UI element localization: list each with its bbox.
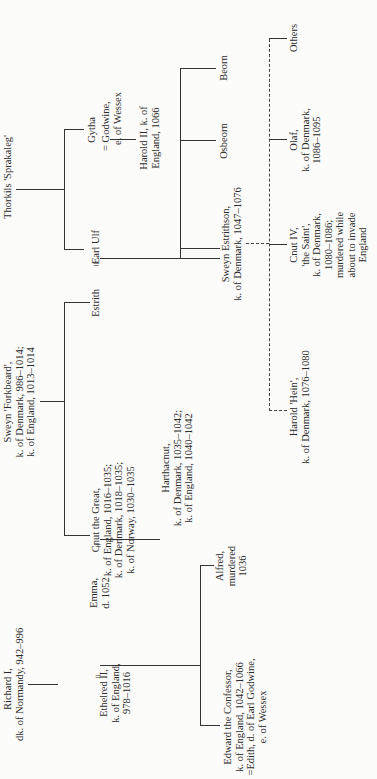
label: Cnut IV, [288, 197, 300, 293]
node-harold-hein: Harold 'Hein', k. of Denmark, 1076–1080 [288, 343, 311, 471]
node-estrith: Estrith [90, 273, 102, 333]
node-gytha: Gytha [86, 100, 98, 160]
label: k. of England, 1040–1042 [183, 395, 195, 541]
connector [64, 130, 65, 250]
label: k. of Denmark, 1035–1042; [172, 395, 184, 541]
label: murdered [226, 539, 238, 593]
label: Estrith [90, 273, 102, 333]
connector [180, 68, 216, 69]
label: 'the Saint', [300, 197, 312, 293]
label: Gytha [86, 100, 98, 160]
label: Thorkils 'Sprakaleg' [2, 115, 14, 239]
connector [110, 139, 136, 140]
connector [64, 129, 84, 130]
label: k. of Norway, 1030–1035 [125, 445, 137, 595]
connector [28, 684, 58, 685]
connector [16, 189, 64, 190]
node-others: Others [288, 13, 300, 63]
node-cnut: Cnut the Great, k. of England, 1016–1035… [90, 445, 136, 595]
node-beorn: Beorn [218, 47, 230, 89]
node-osbeorn: Osbeorn [218, 115, 230, 167]
node-alfred: Alfred, murdered 1036 [214, 539, 249, 593]
label: Harold II, k. of [138, 98, 150, 178]
connector [100, 539, 160, 540]
label: 1080–1086; [323, 197, 335, 293]
label: Sweyn 'Forkbeard', [2, 329, 14, 475]
label: Others [288, 13, 300, 63]
marriage-sign: = [95, 670, 101, 682]
label: dk. of Normandy, 942–996 [14, 637, 26, 741]
label: murdered while [334, 197, 346, 293]
label: England [357, 197, 369, 293]
label: Earl Ulf [90, 217, 102, 277]
label: Harold 'Hein', [288, 343, 300, 471]
label: =Edith, d. of Earl Godwine, [245, 647, 257, 779]
node-edward: Edward the Confessor, k. of England, 104… [222, 647, 268, 779]
label: Cnut the Great, [90, 445, 102, 595]
node-earl-ulf: Earl Ulf [90, 217, 102, 277]
label: Alfred, [214, 539, 226, 593]
label: k. of Denmark, 1047–1076 [232, 182, 244, 306]
connector [200, 565, 214, 566]
label: k. of Denmark, 986–1014; [14, 329, 26, 475]
label: 1036 [237, 539, 249, 593]
connector [200, 725, 220, 726]
connector [180, 69, 181, 259]
connector-dashed [269, 410, 287, 411]
connector [269, 38, 287, 39]
label: e. of Wessex [257, 647, 269, 779]
connector [269, 139, 287, 140]
connector [64, 402, 65, 536]
label: Harthacnut, [160, 395, 172, 541]
node-sweyn-estrithson: Sweyn Estrithson, k. of Denmark, 1047–10… [220, 182, 243, 306]
connector [100, 665, 200, 666]
label: k. of England, 1013–1014 [25, 329, 37, 475]
connector [40, 401, 64, 402]
label: 1086–1095 [311, 100, 323, 180]
connector [180, 248, 220, 249]
label: Sweyn Estrithson, [220, 182, 232, 306]
label: k. of Denmark, 1018–1035; [113, 445, 125, 595]
connector [100, 258, 220, 259]
connector-dashed [269, 39, 270, 411]
label: Beorn [218, 47, 230, 89]
node-richard: Richard I, dk. of Normandy, 942–996 [2, 637, 25, 741]
label: Osbeorn [218, 115, 230, 167]
node-olaf: Olaf, k. of Denmark, 1086–1095 [288, 100, 323, 180]
node-sweyn-forkbeard: Sweyn 'Forkbeard', k. of Denmark, 986–10… [2, 329, 37, 475]
label: Edward the Confessor, [222, 647, 234, 779]
connector [64, 249, 84, 250]
label: about to invade [346, 197, 358, 293]
label: k. of Denmark, 1076–1080 [300, 343, 312, 471]
node-harold2: Harold II, k. of England, 1066 [138, 98, 161, 178]
label: k. of England, 1016–1035; [102, 445, 114, 595]
label: Olaf, [288, 100, 300, 180]
connector [269, 244, 287, 245]
connector [64, 302, 90, 303]
node-cnut-iv: Cnut IV, 'the Saint', k. of Denmark, 108… [288, 197, 369, 293]
connector [180, 140, 216, 141]
connector [64, 535, 90, 536]
connector [200, 566, 201, 726]
label: k. of England, 1042–1066 [234, 647, 246, 779]
label: Richard I, [2, 637, 14, 741]
label: k. of Denmark, [300, 100, 312, 180]
label: k. of Denmark, [311, 197, 323, 293]
label: England, 1066 [150, 98, 162, 178]
node-thorkils: Thorkils 'Sprakaleg' [2, 115, 14, 239]
node-harthacnut: Harthacnut, k. of Denmark, 1035–1042; k.… [160, 395, 195, 541]
connector-dashed [246, 243, 269, 244]
connector [64, 303, 65, 402]
